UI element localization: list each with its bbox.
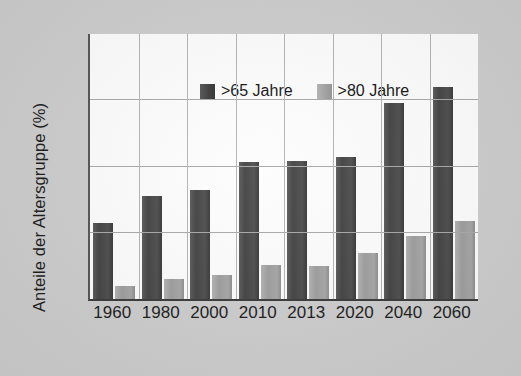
x-axis-tick-labels: 19601980200020102013202020402060 [88,303,478,333]
bar-2010-series-1 [239,162,259,299]
light-gray-swatch-icon [317,84,332,99]
bar-2000-series-1 [190,190,210,299]
bar-1980-series-2 [164,279,184,299]
x-tick-label: 1960 [93,303,131,323]
bar-2000-series-2 [212,275,232,299]
gridline-vertical [139,34,140,299]
bar-2060-series-1 [433,87,453,299]
bar-2013-series-2 [309,266,329,299]
bar-2040-series-1 [384,101,404,299]
dark-gray-swatch-icon [200,84,215,99]
x-tick-label: 2060 [433,303,471,323]
bar-2040-series-2 [406,236,426,299]
x-tick-label: 2013 [287,303,325,323]
bar-2010-series-2 [261,265,281,299]
x-tick-label: 2010 [239,303,277,323]
gridline-vertical [430,34,431,299]
legend-label-80: >80 Jahre [338,82,410,100]
x-tick-label: 2020 [336,303,374,323]
bar-2020-series-2 [358,253,378,299]
x-tick-label: 2040 [384,303,422,323]
legend-item-80: >80 Jahre [317,82,410,100]
x-tick-label: 2000 [190,303,228,323]
legend-item-65: >65 Jahre [200,82,293,100]
y-axis-title: Anteile der Altersgruppe (%) [30,12,60,312]
legend-label-65: >65 Jahre [221,82,293,100]
bar-1980-series-1 [142,196,162,299]
gridline-vertical [284,34,285,299]
bar-1960-series-2 [115,286,135,299]
gridline-vertical [187,34,188,299]
bar-2020-series-1 [336,157,356,299]
gridline-vertical [381,34,382,299]
plot-area: >65 Jahre >80 Jahre [88,34,478,301]
bar-1960-series-1 [93,223,113,299]
bar-2013-series-1 [287,161,307,299]
chart-figure: Anteile der Altersgruppe (%) >65 Jahre >… [0,0,521,376]
x-tick-label: 1980 [142,303,180,323]
gridline-vertical [333,34,334,299]
gridline-vertical [236,34,237,299]
